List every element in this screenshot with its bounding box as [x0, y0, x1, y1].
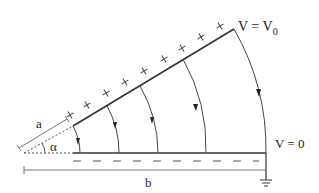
dimension-b: [24, 166, 266, 174]
ground-icon: [260, 180, 272, 186]
angle-label: α: [50, 139, 57, 154]
field-lines: [73, 29, 266, 153]
wedge-capacitor-diagram: α a b: [0, 0, 319, 193]
upper-plate: [73, 29, 234, 126]
field-arrows: [76, 89, 261, 145]
dimension-a-label: a: [36, 116, 42, 131]
lower-plate-potential-label: V = 0: [275, 136, 305, 151]
angle-arc: [42, 143, 45, 153]
upper-plate-potential-label: V = V0: [238, 19, 278, 37]
dimension-b-label: b: [145, 175, 152, 190]
